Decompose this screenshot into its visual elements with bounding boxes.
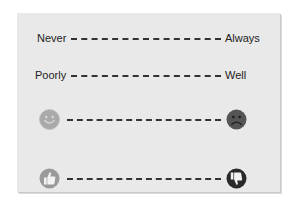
scale-right-label: Well [225,68,246,82]
scale-dashed-line [67,178,221,180]
scale-row-frequency: Never Always [17,31,280,51]
thumbs-up-icon [39,168,60,189]
scale-row-mood [17,109,280,131]
rating-scales-panel: Never Always Poorly Well [17,13,280,192]
scale-left-label: Poorly [35,68,66,82]
scale-left-label: Never [37,31,66,45]
scale-dashed-line [71,75,221,77]
smiley-face-icon [39,109,60,130]
scale-dashed-line [67,119,221,121]
scale-dashed-line [71,38,221,40]
thumbs-down-icon [226,168,247,189]
scale-row-quality: Poorly Well [17,68,280,88]
scale-row-approval [17,168,280,190]
scale-right-label: Always [225,31,260,45]
sad-face-icon [226,109,247,130]
